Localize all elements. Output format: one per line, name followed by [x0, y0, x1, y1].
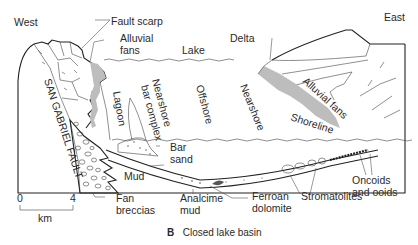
east-highlands	[258, 30, 405, 128]
label-mud: Mud	[124, 170, 145, 182]
closed-lake-basin-diagram: West East Fault scarp Alluvial fans Lake…	[0, 0, 418, 245]
label-alluvial-fans-west-2: fans	[120, 44, 140, 56]
scale-bar	[20, 205, 73, 210]
scale-start: 0	[17, 192, 23, 204]
figure-caption: B Closed lake basin	[167, 222, 262, 239]
caption-text: Closed lake basin	[183, 227, 262, 238]
label-delta: Delta	[230, 32, 255, 44]
label-offshore: Offshore	[194, 83, 216, 125]
label-analcime-mud-2: mud	[180, 204, 201, 216]
label-ferroan-dolomite-1: Ferroan	[252, 190, 289, 202]
label-alluvial-fans-west-1: Alluvial	[120, 32, 153, 44]
label-oncoids-2: and ooids	[352, 186, 398, 198]
label-lake: Lake	[182, 44, 205, 56]
caption-letter: B	[167, 227, 174, 238]
label-fan-breccias-1: Fan	[116, 192, 134, 204]
label-nearshore: Nearshore	[238, 82, 268, 132]
label-san-gabriel-fault: SAN GABRIEL FAULT	[42, 77, 86, 181]
scale-unit: km	[38, 212, 52, 224]
label-ferroan-dolomite-2: dolomite	[252, 202, 292, 214]
label-bar-sand-1: Bar	[170, 141, 187, 153]
label-west: West	[14, 16, 38, 28]
lake-floor-strata	[106, 138, 378, 188]
label-bar-sand-2: sand	[170, 153, 193, 165]
label-oncoids-1: Oncoids	[352, 174, 391, 186]
label-fan-breccias-2: breccias	[116, 204, 155, 216]
label-lagoon: Lagoon	[111, 90, 129, 127]
label-east: East	[384, 11, 405, 23]
label-fault-scarp: Fault scarp	[111, 15, 163, 27]
scale-end: 4	[70, 192, 76, 204]
label-analcime-mud-1: Analcime	[180, 192, 223, 204]
